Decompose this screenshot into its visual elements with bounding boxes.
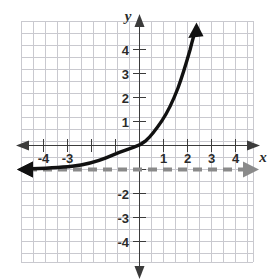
y-tick-label--4: -4 [117, 235, 129, 250]
x-tick-label-3: 3 [208, 151, 215, 166]
y-tick-label--2: -2 [117, 187, 129, 202]
y-tick-label-4: 4 [122, 43, 130, 58]
y-tick-label-1: 1 [122, 115, 129, 130]
y-tick-label-3: 3 [122, 67, 129, 82]
x-tick-label--3: -3 [62, 151, 74, 166]
x-tick-label-1: 1 [160, 151, 167, 166]
x-tick-label--4: -4 [38, 151, 50, 166]
x-axis-label: x [258, 149, 267, 165]
x-tick-label-2: 2 [184, 151, 191, 166]
figure-background [0, 0, 276, 280]
y-axis-label: y [123, 8, 132, 24]
y-tick-label-2: 2 [122, 91, 129, 106]
x-tick-label-4: 4 [232, 151, 240, 166]
graph-figure: -4 -3 1 2 3 4 4 3 2 1 -2 -3 -4 y x [0, 0, 276, 280]
coordinate-plane-svg: -4 -3 1 2 3 4 4 3 2 1 -2 -3 -4 y x [0, 0, 276, 280]
y-tick-label--3: -3 [117, 211, 129, 226]
